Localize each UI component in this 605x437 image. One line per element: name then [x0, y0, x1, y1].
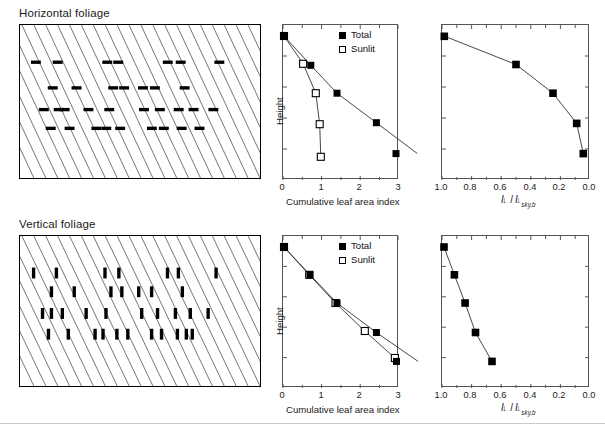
chart-horizontal-lai: Total Sunlit — [282, 24, 398, 179]
irr-subscript: sky,b — [521, 201, 535, 208]
chart-horizontal-irradiance — [441, 24, 589, 179]
legend-sunlit-label: Sunlit — [351, 44, 375, 54]
open-square-icon — [339, 257, 346, 264]
xtick-irr-2: 0.8 — [460, 182, 480, 192]
xlabel-lai-bottom: Cumulative leaf area index — [286, 404, 400, 415]
legend-vertical: Total Sunlit — [339, 240, 375, 268]
footer-divider — [0, 423, 605, 424]
xtick-irr-4: 0.4 — [520, 182, 540, 192]
panel-title-horizontal: Horizontal foliage — [19, 7, 110, 19]
series-total-markers — [441, 33, 588, 158]
xtick-b-3: 3 — [391, 390, 405, 400]
xlabel-lai-top: Cumulative leaf area index — [286, 196, 400, 207]
series-total-marker-last — [393, 358, 400, 365]
down-arrow-icon: ↓ — [502, 195, 507, 205]
xtick-irr-1: 1.0 — [431, 182, 451, 192]
xtick-irr-b-3: 0.6 — [490, 390, 510, 400]
canopy-diagram-vertical — [19, 235, 261, 387]
series-total-line — [444, 36, 583, 154]
canopy-diagram-horizontal — [19, 24, 261, 179]
irr-separator: / — [508, 402, 515, 413]
legend-item-total: Total — [339, 240, 375, 252]
canopy-vertical-svg — [20, 236, 260, 386]
xtick-irr-b-4: 0.4 — [520, 390, 540, 400]
xtick-b-2: 2 — [352, 390, 366, 400]
panel-title-vertical: Vertical foliage — [19, 218, 95, 230]
down-arrow-icon: ↓ — [502, 403, 507, 413]
down-arrow-icon-2: ↓ — [516, 403, 521, 413]
xtick-b-0: 0 — [275, 390, 289, 400]
ylabel-height-bottom: Height — [274, 307, 285, 335]
xtick-2: 2 — [352, 182, 366, 192]
chart-horizontal-irradiance-svg — [442, 25, 590, 180]
legend-total-label: Total — [351, 30, 371, 40]
legend-item-total: Total — [339, 29, 375, 41]
open-square-icon — [339, 46, 346, 53]
series-sunlit-markers — [281, 33, 325, 161]
filled-square-icon — [339, 32, 346, 39]
down-arrow-icon-2: ↓ — [516, 195, 521, 205]
series-total-markers — [440, 243, 496, 365]
irr-separator: / — [508, 194, 515, 205]
chart-vertical-irradiance-svg — [442, 236, 590, 388]
xtick-irr-5: 0.2 — [549, 182, 569, 192]
figure-canvas: Horizontal foliage — [0, 0, 605, 437]
xtick-irr-3: 0.6 — [490, 182, 510, 192]
chart-vertical-irradiance — [441, 235, 589, 387]
legend-horizontal: Total Sunlit — [339, 29, 375, 57]
chart-vertical-lai: Total Sunlit — [282, 235, 398, 387]
xtick-irr-b-5: 0.2 — [549, 390, 569, 400]
legend-item-sunlit: Sunlit — [339, 43, 375, 55]
canopy-horizontal-svg — [20, 25, 260, 178]
xtick-irr-b-1: 1.0 — [431, 390, 451, 400]
filled-square-icon — [339, 243, 346, 250]
legend-total-label: Total — [351, 241, 371, 251]
xtick-1: 1 — [314, 182, 328, 192]
xtick-3: 3 — [391, 182, 405, 192]
series-total-marker-last — [393, 150, 400, 157]
xtick-0: 0 — [275, 182, 289, 192]
legend-sunlit-label: Sunlit — [351, 255, 375, 265]
irr-subscript: sky,b — [521, 409, 535, 416]
xtick-irr-b-2: 0.8 — [460, 390, 480, 400]
ylabel-height-top: Height — [274, 97, 285, 125]
xtick-irr-6: 0.0 — [579, 182, 599, 192]
xlabel-irradiance-bottom: I ↓ / I ↓ sky,b — [501, 402, 537, 413]
xtick-b-1: 1 — [314, 390, 328, 400]
legend-item-sunlit: Sunlit — [339, 254, 375, 266]
xtick-irr-b-6: 0.0 — [579, 390, 599, 400]
xlabel-irradiance-top: I ↓ / I ↓ sky,b — [501, 194, 537, 205]
